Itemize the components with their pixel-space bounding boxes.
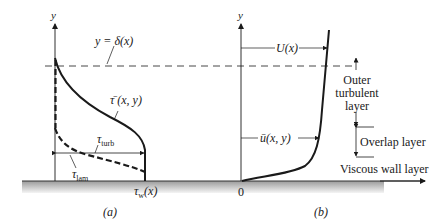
overlap-layer-label: Overlap layer xyxy=(360,136,426,148)
origin-label: 0 xyxy=(238,186,244,198)
viscous-wall-layer-label: Viscous wall layer xyxy=(340,163,429,175)
turbulent-stress-label: τturb xyxy=(97,133,114,145)
outer-label-line3: layer xyxy=(332,100,382,113)
panel-a-y-axis-label: y xyxy=(51,10,56,21)
wall-shear-stress-label: τw(x) xyxy=(134,185,157,197)
mean-velocity-label: ū(x, y) xyxy=(260,132,291,144)
turbulent-boundary-layer-figure: y y = δ(x) τ̄ (x, y) τturb τlam τw(x) (a… xyxy=(0,0,442,222)
total-stress-label: τ̄ (x, y) xyxy=(110,94,142,106)
laminar-stress-label: τlam xyxy=(72,168,88,180)
panel-a-caption: (a) xyxy=(103,206,117,218)
panel-b-y-axis-label: y xyxy=(238,10,243,21)
boundary-thickness-label: y = δ(x) xyxy=(95,35,133,47)
panel-b-caption: (b) xyxy=(314,206,328,218)
outer-turbulent-layer-label: Outer turbulent layer xyxy=(332,74,382,113)
freestream-velocity-label: U(x) xyxy=(276,42,298,54)
